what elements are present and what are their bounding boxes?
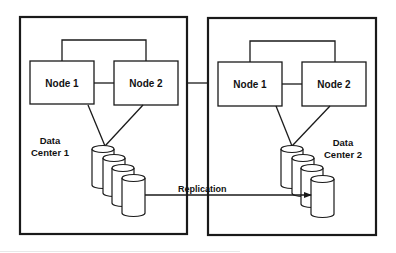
dc1-heartbeat-loop xyxy=(62,40,146,61)
scan-edge-rule xyxy=(0,251,240,252)
replication-label: Replication xyxy=(178,184,227,194)
dc1-node-1-label: Node 1 xyxy=(45,78,79,89)
dc1-node-2-storage-link xyxy=(105,105,143,146)
dc2-node-1-storage-link xyxy=(276,106,292,146)
database-cylinder-icon xyxy=(311,176,334,218)
dc2-node-1: Node 1 xyxy=(218,62,282,106)
dc1-label-line2: Center 1 xyxy=(31,147,70,158)
dc2-label-line2: Center 2 xyxy=(324,149,362,160)
data-center-2-frame xyxy=(208,18,376,235)
dc1-node-1: Node 1 xyxy=(30,61,94,104)
dc2-node-2-storage-link xyxy=(292,106,330,146)
dc2-node-1-label: Node 1 xyxy=(233,79,267,90)
data-center-1-frame xyxy=(20,17,187,234)
dc2-node-2: Node 2 xyxy=(302,62,366,106)
dc1-label-line1: Data xyxy=(40,135,61,146)
dc2-heartbeat-loop xyxy=(250,41,335,62)
dc1-storage-icon xyxy=(92,146,145,217)
dc1-node-2: Node 2 xyxy=(114,61,178,105)
dc2-label-line1: Data xyxy=(333,137,354,148)
replication-diagram: Node 1 Node 2 Data Center 1 xyxy=(0,0,396,253)
dc1-node-1-storage-link xyxy=(88,105,105,146)
dc1-node-2-label: Node 2 xyxy=(129,78,163,89)
database-cylinder-icon xyxy=(122,175,145,217)
data-center-1: Node 1 Node 2 Data Center 1 xyxy=(20,17,187,234)
data-center-2: Node 1 Node 2 Data Center 2 xyxy=(208,18,376,235)
dc2-node-2-label: Node 2 xyxy=(317,79,351,90)
